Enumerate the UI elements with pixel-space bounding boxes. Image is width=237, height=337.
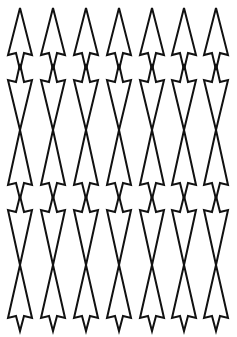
arrow-up-icon (41, 130, 65, 199)
arrow-down-icon (172, 196, 196, 265)
arrow-down-icon (204, 196, 228, 265)
arrow-up-icon (8, 8, 32, 70)
arrow-up-icon (204, 130, 228, 199)
arrow-up-icon (107, 265, 131, 331)
arrow-up-icon (172, 8, 196, 70)
arrow-up-icon (41, 8, 65, 70)
arrow-up-icon (204, 8, 228, 70)
arrow-pattern-canvas (0, 0, 237, 337)
arrow-up-icon (140, 130, 164, 199)
arrow-up-icon (41, 265, 65, 331)
arrow-up-icon (8, 265, 32, 331)
arrow-down-icon (107, 64, 131, 130)
arrow-up-icon (74, 130, 98, 199)
arrow-down-icon (140, 196, 164, 265)
arrow-up-icon (140, 265, 164, 331)
arrow-up-icon (140, 8, 164, 70)
arrow-down-icon (41, 196, 65, 265)
arrow-down-icon (172, 64, 196, 130)
arrow-up-icon (107, 130, 131, 199)
arrow-up-icon (204, 265, 228, 331)
arrow-down-icon (8, 64, 32, 130)
arrow-down-icon (107, 196, 131, 265)
arrow-up-icon (74, 8, 98, 70)
arrow-up-icon (172, 265, 196, 331)
arrow-up-icon (107, 8, 131, 70)
arrow-down-icon (204, 64, 228, 130)
arrow-up-icon (74, 265, 98, 331)
arrow-down-icon (74, 64, 98, 130)
arrow-down-icon (140, 64, 164, 130)
arrow-down-icon (8, 196, 32, 265)
arrow-pattern (0, 0, 237, 337)
arrow-up-icon (172, 130, 196, 199)
arrow-up-icon (8, 130, 32, 199)
arrow-down-icon (41, 64, 65, 130)
arrow-down-icon (74, 196, 98, 265)
